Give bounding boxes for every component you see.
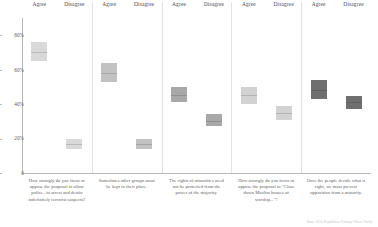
bar-column-disagree [336, 18, 371, 173]
column-header-agree: Agree [231, 2, 266, 16]
panel-1: AgreeDisagree [22, 18, 92, 173]
panel-column-headers: AgreeDisagree [231, 2, 301, 16]
facet-caption-5: Once the people decide what is right, we… [306, 178, 366, 197]
x-axis-baseline [22, 173, 371, 174]
bar-column-disagree [266, 18, 301, 173]
bar-agree-panel-5 [311, 80, 327, 99]
facet-caption-2: Sometimes other groups must be kept in t… [97, 178, 157, 190]
column-header-disagree: Disagree [197, 2, 232, 16]
bar-column-disagree [196, 18, 231, 173]
bar-median-line [241, 95, 257, 96]
bar-column-agree [22, 18, 57, 173]
column-header-agree: Agree [22, 2, 57, 16]
bar-median-line [346, 102, 362, 103]
bar-column-agree [162, 18, 197, 173]
bar-median-line [101, 73, 117, 74]
panel-column-headers: AgreeDisagree [301, 2, 371, 16]
bar-agree-panel-4 [241, 87, 257, 104]
column-header-disagree: Disagree [57, 2, 92, 16]
bar-disagree-panel-4 [276, 106, 292, 120]
bar-disagree-panel-2 [136, 139, 152, 149]
bar-column-disagree [57, 18, 92, 173]
panel-2: AgreeDisagree [92, 18, 162, 173]
y-axis-tick-mark [0, 173, 2, 174]
y-axis-tick: 0 [0, 173, 26, 174]
column-header-disagree: Disagree [127, 2, 162, 16]
column-header-agree: Agree [162, 2, 197, 16]
column-header-agree: Agree [92, 2, 127, 16]
y-axis-tick-mark [0, 104, 2, 105]
bar-disagree-panel-3 [206, 114, 222, 126]
panel-column-headers: AgreeDisagree [92, 2, 162, 16]
plot-area: 020%40%60%80% AgreeDisagreeAgreeDisagree… [22, 18, 371, 173]
panel-3: AgreeDisagree [162, 18, 232, 173]
bar-disagree-panel-5 [346, 96, 362, 110]
bar-median-line [276, 113, 292, 114]
facet-caption-1: How strongly do you favor or oppose the … [27, 178, 87, 203]
bar-agree-panel-1 [31, 42, 47, 61]
bar-column-disagree [127, 18, 162, 173]
panel-4: AgreeDisagree [231, 18, 301, 173]
bar-median-line [171, 95, 187, 96]
bar-agree-panel-2 [101, 63, 117, 82]
source-note: Data: 2016 Republican Primary Voters Stu… [307, 220, 372, 224]
panel-column-headers: AgreeDisagree [162, 2, 232, 16]
column-header-disagree: Disagree [266, 2, 301, 16]
bar-column-agree [231, 18, 266, 173]
facet-caption-4: How strongly do you favor or oppose the … [236, 178, 296, 203]
bar-median-line [31, 52, 47, 53]
column-header-agree: Agree [301, 2, 336, 16]
panel-5: AgreeDisagree [301, 18, 371, 173]
column-header-disagree: Disagree [336, 2, 371, 16]
y-axis-tick-mark [0, 70, 2, 71]
y-axis-tick-mark [0, 35, 2, 36]
faceted-bar-chart: 020%40%60%80% AgreeDisagreeAgreeDisagree… [0, 0, 378, 227]
panel-column-headers: AgreeDisagree [22, 2, 92, 16]
facet-captions: How strongly do you favor or oppose the … [22, 178, 371, 220]
bar-median-line [66, 144, 82, 145]
bar-median-line [206, 121, 222, 122]
y-axis-tick-mark [0, 139, 2, 140]
bar-column-agree [92, 18, 127, 173]
facet-caption-3: The rights of minorities need not be pro… [166, 178, 226, 197]
bar-median-line [311, 90, 327, 91]
bar-agree-panel-3 [171, 87, 187, 103]
bar-disagree-panel-1 [66, 139, 82, 149]
bar-column-agree [301, 18, 336, 173]
bar-median-line [136, 144, 152, 145]
